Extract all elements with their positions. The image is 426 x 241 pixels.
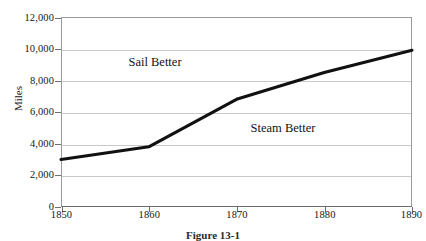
- annotation-sail-better: Sail Better: [128, 56, 181, 69]
- x-tick-label-1850: 1850: [32, 210, 92, 221]
- y-tick-label-10000: 10,000: [0, 44, 54, 55]
- series-line-distance: [61, 17, 412, 207]
- x-tick-label-1860: 1860: [119, 210, 179, 221]
- annotation-steam-better: Steam Better: [251, 122, 316, 135]
- x-tick-label-1890: 1890: [382, 210, 426, 221]
- x-tick-label-1870: 1870: [207, 210, 267, 221]
- y-tick-label-4000: 4,000: [0, 139, 54, 150]
- y-axis-title: Miles: [13, 64, 24, 134]
- y-tick-label-8000: 8,000: [0, 76, 54, 87]
- figure-caption: Figure 13-1: [0, 229, 426, 241]
- y-tick-label-2000: 2,000: [0, 170, 54, 181]
- x-tick-label-1880: 1880: [295, 210, 355, 221]
- y-tick-label-12000: 12,000: [0, 13, 54, 24]
- y-tick-label-6000: 6,000: [0, 107, 54, 118]
